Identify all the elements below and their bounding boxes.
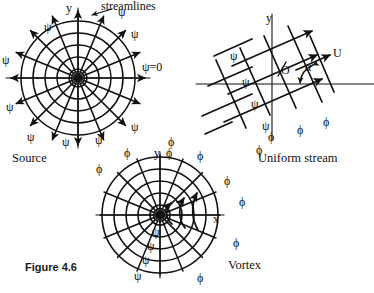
vortex-axis-x-label: x xyxy=(213,213,219,225)
vortex-stream-label-1: ψ xyxy=(147,240,155,252)
source-stream-label-3: ψ xyxy=(2,54,10,66)
uniform-stream-stream-label-0: ψ xyxy=(230,50,238,62)
source-stream-zero-label: ψ=0 xyxy=(142,61,162,73)
uniform-stream-potential-label-2: ϕ xyxy=(268,131,274,143)
source-stream-label-1: ψ xyxy=(131,121,139,133)
uniform-stream-stream-label-2: ψ xyxy=(251,98,259,110)
source-stream-label-2: ψ xyxy=(44,21,52,33)
source-stream-label-6: ψ xyxy=(62,136,70,148)
uniform-stream-origin-label: O xyxy=(281,64,290,76)
streamlines-annotation: streamlines xyxy=(101,0,156,12)
vortex-diagram xyxy=(96,152,224,278)
vortex-potential-label-4: ϕ xyxy=(224,175,230,187)
source-stream-label-0: ψ xyxy=(131,28,139,40)
source-stream-label-4: ψ xyxy=(6,101,14,113)
vortex-potential-label-6: ϕ xyxy=(233,237,239,249)
uniform-stream-equipotentials xyxy=(216,26,334,128)
uniform-stream-panel-title: Uniform stream xyxy=(258,152,338,165)
vortex-stream-label-0: ψ xyxy=(152,226,160,238)
source-stream-label-5: ψ xyxy=(27,131,35,143)
vortex-stream-label-3: ψ xyxy=(134,270,142,282)
vortex-potential-label-1: ϕ xyxy=(124,147,130,159)
figure-caption: Figure 4.6 xyxy=(25,262,77,273)
vortex-potential-label-2: ϕ xyxy=(197,150,203,162)
uniform-stream-axis-y-label: y xyxy=(266,12,272,24)
uniform-stream-potential-label-1: ϕ xyxy=(297,124,303,136)
uniform-stream-velocity-label: U xyxy=(333,47,342,59)
uniform-stream-diagram xyxy=(196,14,374,140)
vortex-potential-label-3: ϕ xyxy=(96,163,102,175)
source-panel-title: Source xyxy=(12,152,47,165)
figure-4-6: y streamlines ψ=0 ψ ψ ψ ψ ψ ψ ψ ψ ψ ϕ So… xyxy=(0,0,374,293)
uniform-stream-potential-label-0: ϕ xyxy=(323,116,329,128)
source-diagram xyxy=(6,8,150,148)
vortex-axis-y-label: y xyxy=(154,147,160,159)
vortex-potential-label-0: ϕ xyxy=(166,147,172,159)
source-stream-label-8: ψ xyxy=(118,6,126,18)
vortex-panel-title: Vortex xyxy=(228,259,261,272)
source-stream-label-7: ψ xyxy=(95,134,103,146)
uniform-stream-stream-label-1: ψ xyxy=(242,76,250,88)
vortex-stream-label-2: ψ xyxy=(142,254,150,266)
source-axis-y-label: y xyxy=(66,2,72,14)
vortex-potential-label-7: ϕ xyxy=(197,272,203,284)
vortex-potential-label-5: ϕ xyxy=(239,196,245,208)
uniform-stream-angle-label: α xyxy=(305,61,311,73)
figure-vector-artwork xyxy=(0,0,374,293)
